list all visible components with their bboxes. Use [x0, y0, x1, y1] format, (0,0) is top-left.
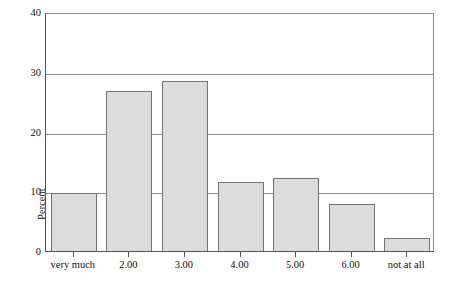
plot-area — [45, 13, 434, 252]
x-axis-tick-label: 4.00 — [212, 259, 268, 270]
y-axis-tick-label: 40 — [22, 8, 41, 19]
bar — [273, 178, 319, 251]
x-axis-tick — [351, 252, 352, 257]
bar — [384, 238, 430, 251]
x-axis-tick-label: 5.00 — [267, 259, 323, 270]
x-axis-tick — [406, 252, 407, 257]
bar — [329, 204, 375, 251]
bar-chart: Percent 010203040 very much2.003.004.005… — [0, 0, 453, 294]
bar — [218, 182, 264, 251]
x-axis-tick — [295, 252, 296, 257]
y-axis-tick-labels: 010203040 — [22, 0, 41, 294]
x-axis-tick — [184, 252, 185, 257]
bar — [106, 91, 152, 251]
x-axis-tick-label: 3.00 — [156, 259, 212, 270]
x-axis-tick — [128, 252, 129, 257]
y-axis-tick-label: 0 — [22, 247, 41, 258]
x-axis-tick-label: very much — [45, 259, 101, 270]
y-axis-tick-label: 20 — [22, 128, 41, 139]
bar — [162, 81, 208, 251]
x-axis-tick-label: not at all — [378, 259, 434, 270]
x-axis-tick-label: 6.00 — [323, 259, 379, 270]
bar — [51, 193, 97, 251]
x-axis-tick — [240, 252, 241, 257]
y-axis-tick-label: 10 — [22, 187, 41, 198]
y-axis-tick-label: 30 — [22, 68, 41, 79]
bars-group — [46, 14, 433, 251]
x-axis-tick — [73, 252, 74, 257]
x-axis-tick-label: 2.00 — [101, 259, 157, 270]
